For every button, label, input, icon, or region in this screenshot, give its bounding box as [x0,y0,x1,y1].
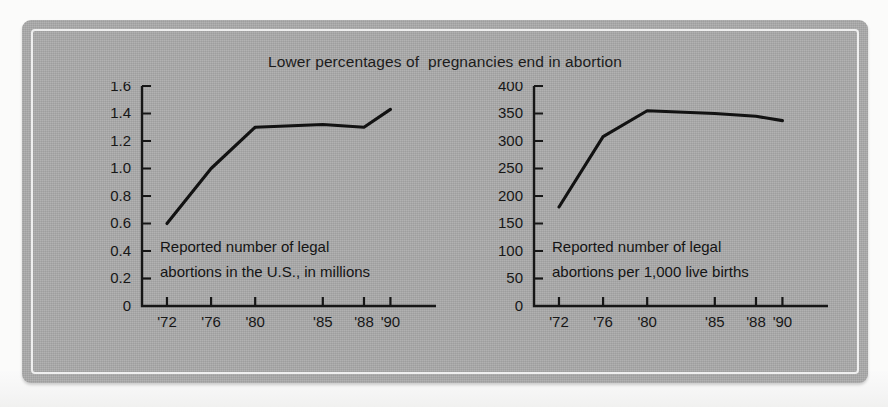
y-tick-label: 150 [498,214,523,231]
x-tick-label: '90 [773,313,793,330]
y-tick-label: 0 [515,297,523,314]
y-tick-label: 1.2 [110,132,131,149]
y-tick-label: 0.8 [110,187,131,204]
y-tick-label: 1.4 [110,104,131,121]
chart-caption-line: Reported number of legal [160,238,329,255]
chart-caption-line: Reported number of legal [552,238,721,255]
data-series-line [167,109,390,223]
x-tick-label: '80 [245,313,265,330]
chart-left-svg: 1.61.41.21.00.80.60.40.20'72'76'80'85'88… [80,82,440,344]
x-tick-label: '90 [381,313,401,330]
x-tick-label: '80 [637,313,657,330]
y-tick-label: 0 [123,297,131,314]
figure-panel: Lower percentages of pregnancies end in … [22,20,868,383]
chart-left-legal-abortions-millions: 1.61.41.21.00.80.60.40.20'72'76'80'85'88… [80,82,440,344]
x-tick-label: '72 [157,313,177,330]
y-tick-label: 1.6 [110,82,131,94]
x-tick-label: '85 [705,313,725,330]
y-tick-label: 350 [498,104,523,121]
chart-caption-line: abortions per 1,000 live births [552,263,749,280]
x-tick-label: '76 [201,313,221,330]
y-tick-label: 0.4 [110,242,131,259]
page-title: Lower percentages of pregnancies end in … [22,53,868,71]
y-tick-label: 0.2 [110,269,131,286]
x-tick-label: '85 [313,313,333,330]
y-tick-label: 1.0 [110,159,131,176]
data-series-line [559,111,782,207]
x-tick-label: '72 [549,313,569,330]
y-tick-label: 100 [498,242,523,259]
chart-right-svg: 400350300250200150100500'72'76'80'85'88'… [472,82,832,344]
chart-right-abortions-per-1000: 400350300250200150100500'72'76'80'85'88'… [472,82,832,344]
y-tick-label: 400 [498,82,523,94]
y-tick-label: 200 [498,187,523,204]
y-tick-label: 50 [506,269,523,286]
x-tick-label: '76 [593,313,613,330]
y-tick-label: 300 [498,132,523,149]
y-tick-label: 250 [498,159,523,176]
x-tick-label: '88 [746,313,766,330]
chart-caption-line: abortions in the U.S., in millions [160,263,370,280]
y-tick-label: 0.6 [110,214,131,231]
x-tick-label: '88 [354,313,374,330]
